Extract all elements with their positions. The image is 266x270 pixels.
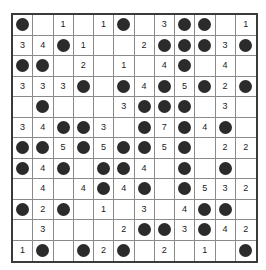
grid-cell-r8-c10[interactable] — [195, 159, 215, 180]
grid-cell-r7-c2[interactable] — [33, 138, 53, 159]
grid-cell-r2-c11[interactable]: 3 — [216, 36, 236, 57]
grid-cell-r3-c10[interactable] — [195, 56, 215, 77]
grid-cell-r3-c1[interactable] — [13, 56, 33, 77]
grid-cell-r10-c4[interactable] — [74, 200, 94, 221]
grid-cell-r5-c3[interactable] — [54, 97, 74, 118]
grid-cell-r2-c3[interactable] — [54, 36, 74, 57]
grid-cell-r6-c11[interactable] — [216, 118, 236, 139]
grid-cell-r5-c9[interactable] — [175, 97, 195, 118]
grid-cell-r12-c10[interactable]: 1 — [195, 241, 215, 262]
grid-cell-r12-c8[interactable]: 2 — [155, 241, 175, 262]
grid-cell-r8-c5[interactable] — [94, 159, 114, 180]
grid-cell-r1-c11[interactable] — [216, 15, 236, 36]
grid-cell-r4-c3[interactable]: 3 — [54, 77, 74, 98]
grid-cell-r1-c6[interactable] — [114, 15, 134, 36]
grid-cell-r4-c9[interactable]: 5 — [175, 77, 195, 98]
grid-cell-r5-c12[interactable] — [236, 97, 256, 118]
grid-cell-r4-c7[interactable]: 4 — [135, 77, 155, 98]
grid-cell-r1-c10[interactable] — [195, 15, 215, 36]
grid-cell-r2-c2[interactable]: 4 — [33, 36, 53, 57]
grid-cell-r3-c11[interactable]: 4 — [216, 56, 236, 77]
grid-cell-r12-c2[interactable] — [33, 241, 53, 262]
grid-cell-r9-c2[interactable]: 4 — [33, 179, 53, 200]
grid-cell-r9-c11[interactable]: 3 — [216, 179, 236, 200]
grid-cell-r7-c9[interactable] — [175, 138, 195, 159]
grid-cell-r3-c9[interactable] — [175, 56, 195, 77]
grid-cell-r6-c3[interactable] — [54, 118, 74, 139]
grid-cell-r8-c6[interactable] — [114, 159, 134, 180]
grid-cell-r9-c12[interactable]: 2 — [236, 179, 256, 200]
grid-cell-r1-c7[interactable] — [135, 15, 155, 36]
grid-cell-r1-c4[interactable] — [74, 15, 94, 36]
grid-cell-r3-c4[interactable]: 2 — [74, 56, 94, 77]
grid-cell-r8-c9[interactable] — [175, 159, 195, 180]
grid-cell-r4-c2[interactable]: 3 — [33, 77, 53, 98]
grid-cell-r1-c3[interactable]: 1 — [54, 15, 74, 36]
grid-cell-r6-c7[interactable] — [135, 118, 155, 139]
grid-cell-r9-c8[interactable] — [155, 179, 175, 200]
grid-cell-r2-c12[interactable] — [236, 36, 256, 57]
grid-cell-r10-c10[interactable] — [195, 200, 215, 221]
grid-cell-r11-c4[interactable] — [74, 220, 94, 241]
grid-cell-r12-c11[interactable] — [216, 241, 236, 262]
grid-cell-r4-c11[interactable]: 2 — [216, 77, 236, 98]
grid-cell-r4-c8[interactable] — [155, 77, 175, 98]
grid-cell-r12-c9[interactable] — [175, 241, 195, 262]
grid-cell-r3-c6[interactable]: 1 — [114, 56, 134, 77]
grid-cell-r12-c1[interactable]: 1 — [13, 241, 33, 262]
grid-cell-r8-c12[interactable] — [236, 159, 256, 180]
grid-cell-r6-c8[interactable]: 7 — [155, 118, 175, 139]
grid-cell-r11-c3[interactable] — [54, 220, 74, 241]
grid-cell-r8-c8[interactable] — [155, 159, 175, 180]
grid-cell-r9-c9[interactable] — [175, 179, 195, 200]
grid-cell-r2-c10[interactable] — [195, 36, 215, 57]
grid-cell-r4-c10[interactable] — [195, 77, 215, 98]
grid-cell-r11-c6[interactable]: 2 — [114, 220, 134, 241]
grid-cell-r5-c1[interactable] — [13, 97, 33, 118]
grid-cell-r1-c2[interactable] — [33, 15, 53, 36]
grid-cell-r7-c7[interactable] — [135, 138, 155, 159]
grid-cell-r6-c5[interactable]: 3 — [94, 118, 114, 139]
grid-cell-r1-c5[interactable]: 1 — [94, 15, 114, 36]
grid-cell-r11-c1[interactable] — [13, 220, 33, 241]
grid-cell-r1-c12[interactable]: 1 — [236, 15, 256, 36]
grid-cell-r8-c4[interactable] — [74, 159, 94, 180]
grid-cell-r10-c1[interactable] — [13, 200, 33, 221]
grid-cell-r5-c11[interactable]: 3 — [216, 97, 236, 118]
grid-cell-r11-c5[interactable] — [94, 220, 114, 241]
grid-cell-r12-c6[interactable] — [114, 241, 134, 262]
grid-cell-r10-c3[interactable] — [54, 200, 74, 221]
grid-cell-r2-c1[interactable]: 3 — [13, 36, 33, 57]
grid-cell-r3-c5[interactable] — [94, 56, 114, 77]
grid-cell-r9-c1[interactable] — [13, 179, 33, 200]
grid-cell-r6-c9[interactable] — [175, 118, 195, 139]
grid-cell-r7-c1[interactable] — [13, 138, 33, 159]
grid-cell-r2-c7[interactable]: 2 — [135, 36, 155, 57]
grid-cell-r12-c3[interactable] — [54, 241, 74, 262]
grid-cell-r10-c12[interactable] — [236, 200, 256, 221]
grid-cell-r11-c2[interactable]: 3 — [33, 220, 53, 241]
grid-cell-r5-c7[interactable] — [135, 97, 155, 118]
grid-cell-r5-c2[interactable] — [33, 97, 53, 118]
grid-cell-r10-c8[interactable] — [155, 200, 175, 221]
grid-cell-r8-c3[interactable] — [54, 159, 74, 180]
grid-cell-r3-c7[interactable] — [135, 56, 155, 77]
grid-cell-r6-c1[interactable]: 3 — [13, 118, 33, 139]
grid-cell-r10-c6[interactable] — [114, 200, 134, 221]
grid-cell-r10-c7[interactable]: 3 — [135, 200, 155, 221]
grid-cell-r7-c4[interactable] — [74, 138, 94, 159]
grid-cell-r8-c7[interactable]: 4 — [135, 159, 155, 180]
grid-cell-r6-c6[interactable] — [114, 118, 134, 139]
grid-cell-r9-c10[interactable]: 5 — [195, 179, 215, 200]
grid-cell-r1-c9[interactable] — [175, 15, 195, 36]
grid-cell-r7-c5[interactable]: 5 — [94, 138, 114, 159]
grid-cell-r12-c5[interactable]: 2 — [94, 241, 114, 262]
grid-cell-r7-c3[interactable]: 5 — [54, 138, 74, 159]
grid-cell-r9-c6[interactable]: 4 — [114, 179, 134, 200]
grid-cell-r10-c11[interactable] — [216, 200, 236, 221]
grid-cell-r3-c3[interactable] — [54, 56, 74, 77]
grid-cell-r4-c5[interactable] — [94, 77, 114, 98]
grid-cell-r1-c8[interactable]: 3 — [155, 15, 175, 36]
grid-cell-r4-c6[interactable] — [114, 77, 134, 98]
grid-cell-r3-c2[interactable] — [33, 56, 53, 77]
